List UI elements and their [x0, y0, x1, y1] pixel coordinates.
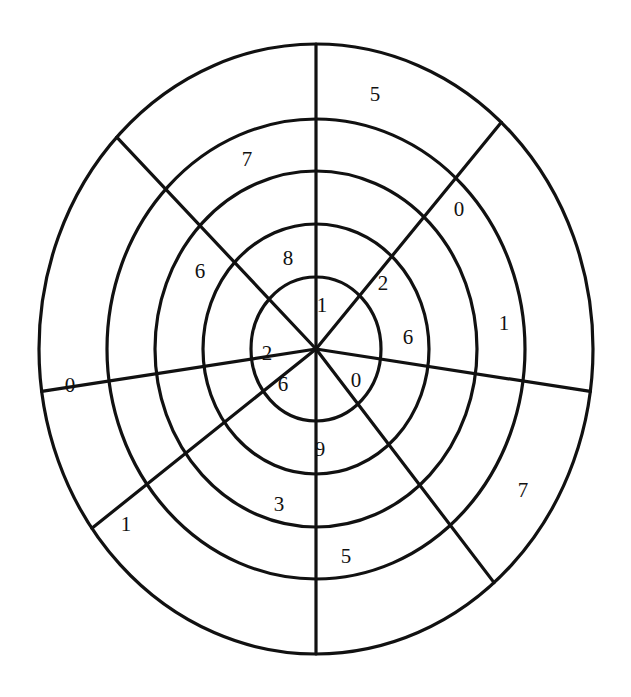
- radial-sector-grid: [0, 0, 631, 697]
- cell-digit-r1-s5: 6: [278, 374, 289, 395]
- cell-digit-r3-s5: 3: [274, 494, 285, 515]
- cell-digit-r1-s1: 1: [317, 295, 328, 316]
- cell-digit-r1-s6: 2: [262, 343, 273, 364]
- cell-digit-r5-s4: 0: [65, 375, 76, 396]
- cell-digit-r3-s2: 6: [195, 261, 206, 282]
- figure-canvas: 126082696357017501: [0, 0, 631, 697]
- divider-7: [42, 349, 316, 391]
- cell-digit-r4-s8: 0: [454, 199, 465, 220]
- divider-8: [117, 137, 316, 349]
- cell-digit-r5-s1: 5: [370, 84, 381, 105]
- cell-digit-r5-s6: 7: [518, 480, 529, 501]
- cell-digit-r4-s1: 7: [242, 149, 253, 170]
- cell-digit-r2-s7: 6: [403, 327, 414, 348]
- cell-digit-r2-s4: 9: [315, 439, 326, 460]
- cell-digit-r5-s5: 1: [121, 514, 132, 535]
- cell-digit-r2-s8: 2: [378, 273, 389, 294]
- divider-group: [42, 44, 591, 654]
- cell-digit-r1-s4: 0: [351, 370, 362, 391]
- cell-digit-r4-s4: 5: [341, 546, 352, 567]
- cell-digit-r4-s7: 1: [499, 313, 510, 334]
- cell-digit-r2-s2: 8: [283, 248, 294, 269]
